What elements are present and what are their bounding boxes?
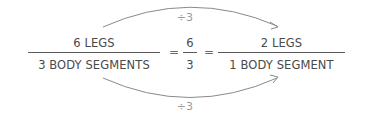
- left-numerator: 6 LEGS: [28, 36, 160, 50]
- bottom-arrow-icon: [103, 75, 278, 98]
- middle-fraction-bar: [183, 52, 197, 53]
- left-denominator: 3 BODY SEGMENTS: [28, 58, 160, 72]
- equals-sign-2: =: [203, 45, 215, 59]
- middle-denominator: 3: [183, 58, 197, 72]
- bottom-arrow-label: ÷3: [170, 100, 200, 113]
- middle-numerator: 6: [183, 36, 197, 50]
- left-fraction-bar: [28, 52, 160, 53]
- right-fraction-bar: [218, 52, 345, 53]
- right-denominator: 1 BODY SEGMENT: [218, 58, 345, 72]
- top-arrow-label: ÷3: [170, 11, 200, 24]
- equals-sign-1: =: [168, 45, 180, 59]
- right-numerator: 2 LEGS: [218, 36, 345, 50]
